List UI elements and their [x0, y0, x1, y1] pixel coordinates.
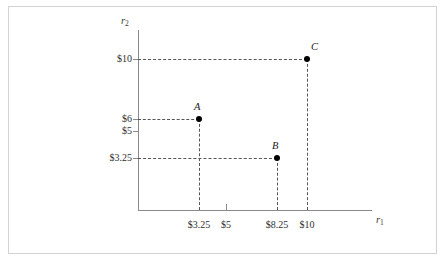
x-axis-label: r1: [376, 214, 384, 227]
y-tick-label-10: $10: [70, 53, 132, 65]
y-axis-label-subscript: 2: [125, 19, 129, 28]
data-point-b-label: B: [272, 140, 278, 151]
scatter-plot: r2 r1 $10 $6 $5 $3.25 $3.25 $5 $8.25 $10…: [0, 0, 441, 260]
y-tick-label-5-text: $5: [122, 125, 132, 136]
x-axis-line: [138, 210, 372, 211]
guide-line-x-10: [307, 59, 308, 210]
y-tick-label-325: $3.25: [70, 152, 132, 164]
x-tick-label-5-text: $5: [221, 219, 231, 230]
y-tick-label-6-text: $6: [122, 113, 132, 124]
guide-line-y-325: [138, 158, 277, 159]
y-axis-line: [138, 30, 139, 211]
guide-line-x-325: [199, 119, 200, 210]
y-tick-label-325-text: $3.25: [110, 152, 133, 163]
y-tick-label-5: $5: [70, 125, 132, 137]
x-tick-mark-5: [226, 204, 227, 210]
y-axis-label: r2: [121, 15, 129, 28]
guide-line-y-10: [138, 59, 307, 60]
x-tick-label-10-text: $10: [300, 219, 315, 230]
y-tick-mark-5: [133, 131, 139, 132]
data-point-c-label: C: [311, 41, 318, 52]
x-tick-label-10: $10: [277, 214, 337, 232]
guide-line-x-825: [277, 158, 278, 210]
guide-line-y-6: [138, 119, 199, 120]
data-point-c[interactable]: [304, 56, 310, 62]
x-axis-label-subscript: 1: [380, 218, 384, 227]
data-point-a-label: A: [194, 101, 200, 112]
data-point-a[interactable]: [196, 116, 202, 122]
y-tick-label-10-text: $10: [117, 53, 132, 64]
y-tick-label-6: $6: [70, 113, 132, 125]
data-point-b[interactable]: [274, 155, 280, 161]
